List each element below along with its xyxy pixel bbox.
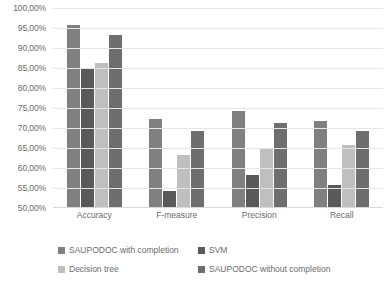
bar — [109, 35, 122, 207]
y-axis-tick-label: 80,00% — [18, 83, 46, 93]
chart-legend: SAUPODOC with completionSVMDecision tree… — [58, 245, 378, 274]
y-axis-tick-label: 95,00% — [18, 23, 46, 33]
y-axis-tick-label: 55,00% — [18, 183, 46, 193]
legend-label: Decision tree — [69, 264, 119, 274]
y-axis-tick-label: 65,00% — [18, 143, 46, 153]
legend-item[interactable]: SAUPODOC without completion — [198, 264, 388, 274]
bar — [95, 63, 108, 207]
legend-item[interactable]: SAUPODOC with completion — [58, 245, 198, 255]
gridline — [53, 108, 383, 109]
bar — [67, 25, 80, 207]
gridline — [53, 68, 383, 69]
legend-item[interactable]: Decision tree — [58, 264, 198, 274]
plot-canvas — [53, 8, 383, 208]
gridline — [53, 168, 383, 169]
y-axis-tick-label: 75,00% — [18, 103, 46, 113]
gridline — [53, 8, 383, 9]
bar-chart: 50,00%55,00%60,00%65,00%70,00%75,00%80,0… — [0, 0, 392, 291]
y-axis-tick-label: 70,00% — [18, 123, 46, 133]
y-axis-tick-label: 50,00% — [18, 203, 46, 213]
bar — [314, 121, 327, 207]
y-axis-tick-label: 60,00% — [18, 163, 46, 173]
legend-swatch-icon — [198, 266, 205, 273]
bar — [232, 111, 245, 207]
legend-swatch-icon — [58, 247, 65, 254]
x-axis-category-label: F-measure — [144, 210, 210, 220]
y-axis: 50,00%55,00%60,00%65,00%70,00%75,00%80,0… — [0, 8, 50, 208]
legend-swatch-icon — [58, 266, 65, 273]
x-axis-category-label: Accuracy — [61, 210, 127, 220]
gridline — [53, 88, 383, 89]
x-axis-category-label: Precision — [226, 210, 292, 220]
legend-item[interactable]: SVM — [198, 245, 388, 255]
gridline — [53, 28, 383, 29]
y-axis-tick-label: 100,00% — [13, 3, 46, 13]
bar — [246, 175, 259, 207]
bar — [274, 123, 287, 207]
bar — [260, 149, 273, 207]
x-axis-category-label: Recall — [309, 210, 375, 220]
x-axis-labels: AccuracyF-measurePrecisionRecall — [53, 210, 383, 220]
legend-label: SVM — [209, 245, 227, 255]
gridline — [53, 188, 383, 189]
plot-area: 50,00%55,00%60,00%65,00%70,00%75,00%80,0… — [0, 8, 392, 236]
bar — [81, 69, 94, 207]
bar — [163, 191, 176, 207]
gridline — [53, 128, 383, 129]
gridline — [53, 48, 383, 49]
legend-label: SAUPODOC without completion — [209, 264, 330, 274]
bar — [149, 119, 162, 207]
legend-label: SAUPODOC with completion — [69, 245, 179, 255]
bar — [177, 155, 190, 207]
gridline — [53, 148, 383, 149]
bar — [342, 145, 355, 207]
y-axis-tick-label: 90,00% — [18, 43, 46, 53]
bar — [356, 131, 369, 207]
bar — [191, 131, 204, 207]
y-axis-tick-label: 85,00% — [18, 63, 46, 73]
legend-swatch-icon — [198, 247, 205, 254]
